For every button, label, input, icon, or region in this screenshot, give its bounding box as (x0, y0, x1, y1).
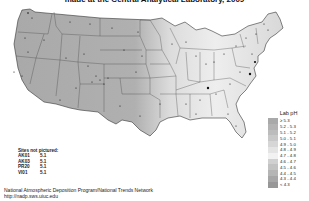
legend-item: < 4.3 (268, 182, 309, 188)
footer-url: http://nadp.sws.uiuc.edu (4, 193, 153, 199)
us-ph-map (0, 4, 309, 144)
legend-title: Lab pH (268, 110, 309, 116)
legend-swatch (268, 182, 278, 188)
site-row: VI015.1 (18, 170, 58, 176)
sites-not-pictured: Sites not pictured: AK015.1 AK035.1 PR20… (18, 148, 58, 175)
ph-legend: Lab pH ≥ 5.3 5.2 - 5.3 5.1 - 5.2 5.0 - 5… (268, 110, 309, 188)
footer: National Atmospheric Deposition Program/… (4, 187, 153, 199)
us-outline (14, 9, 283, 138)
